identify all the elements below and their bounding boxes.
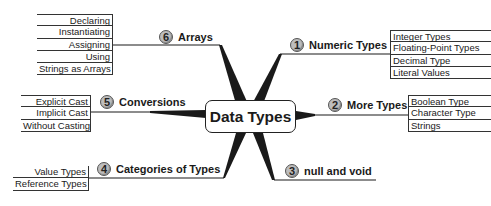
subtopic[interactable]: Declaring (37, 14, 113, 26)
numeric-types-subtopics: Integer Types Floating-Point Types Decim… (390, 30, 491, 79)
subtopic[interactable]: Strings as Arrays (37, 63, 113, 75)
branch-label: Numeric Types (309, 39, 387, 51)
number-badge-icon: 1 (290, 38, 304, 52)
subtopic[interactable]: Without Casting (21, 120, 91, 132)
number-badge-icon: 2 (328, 98, 342, 112)
branch-label: Categories of Types (116, 163, 220, 175)
subtopic[interactable]: Floating-Point Types (390, 42, 491, 54)
subtopic[interactable]: Explicit Cast (21, 95, 91, 107)
number-badge-icon: 5 (100, 95, 114, 109)
branch-label: Arrays (178, 31, 213, 43)
subtopic[interactable]: Assigning (37, 39, 113, 51)
subtopic[interactable]: Literal Values (390, 67, 491, 79)
branch-categories-of-types[interactable]: 4 Categories of Types (97, 162, 220, 176)
subtopic[interactable]: Character Type (408, 107, 491, 119)
branch-label: More Types (347, 99, 407, 111)
subtopic[interactable]: Using (37, 51, 113, 63)
number-badge-icon: 4 (97, 162, 111, 176)
subtopic[interactable]: Value Types (13, 166, 89, 178)
subtopic[interactable]: Integer Types (390, 30, 491, 42)
branch-label: Conversions (119, 96, 186, 108)
branch-label: null and void (304, 165, 372, 177)
central-topic[interactable]: Data Types (205, 100, 296, 133)
categories-subtopics: Value Types Reference Types (13, 166, 89, 191)
more-types-subtopics: Boolean Type Character Type Strings (408, 95, 491, 132)
branch-null-and-void[interactable]: 3 null and void (285, 164, 372, 178)
number-badge-icon: 6 (159, 30, 173, 44)
branch-more-types[interactable]: 2 More Types (328, 98, 407, 112)
subtopic[interactable]: Instantiating (37, 26, 113, 38)
subtopic[interactable]: Implicit Cast (21, 107, 91, 119)
subtopic[interactable]: Boolean Type (408, 95, 491, 107)
branch-numeric-types[interactable]: 1 Numeric Types (290, 38, 387, 52)
subtopic[interactable]: Strings (408, 120, 491, 132)
branch-conversions[interactable]: 5 Conversions (100, 95, 186, 109)
central-topic-label: Data Types (210, 108, 292, 126)
number-badge-icon: 3 (285, 164, 299, 178)
subtopic[interactable]: Reference Types (13, 178, 89, 190)
subtopic[interactable]: Decimal Type (390, 55, 491, 67)
conversions-subtopics: Explicit Cast Implicit Cast Without Cast… (21, 95, 91, 132)
branch-arrays[interactable]: 6 Arrays (159, 30, 213, 44)
arrays-subtopics: Declaring Instantiating Assigning Using … (37, 14, 113, 75)
